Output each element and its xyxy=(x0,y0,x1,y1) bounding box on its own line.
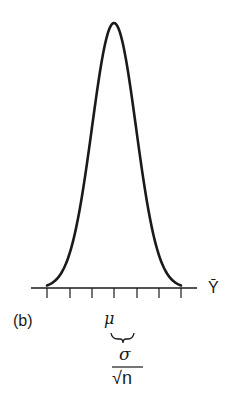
sqrt-n-label: √n xyxy=(112,369,132,387)
axis-ticks xyxy=(47,288,181,298)
density-curve xyxy=(47,23,181,285)
mean-label: μ xyxy=(104,311,114,327)
axis-label: Ȳ xyxy=(208,280,219,296)
sigma-label: σ xyxy=(119,346,131,363)
panel-label: (b) xyxy=(13,313,33,329)
brace-icon xyxy=(111,333,134,343)
normal-curve-diagram xyxy=(0,0,234,418)
